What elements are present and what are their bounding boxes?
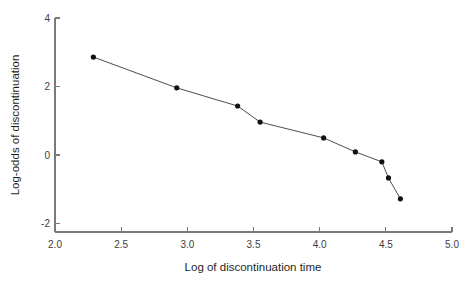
y-tick-label: 2 (44, 81, 50, 92)
data-point-marker (321, 135, 326, 140)
y-tick-label: 0 (44, 150, 50, 161)
x-tick-label: 4.0 (313, 239, 327, 250)
x-tick-label: 3.0 (180, 239, 194, 250)
x-tick-label: 5.0 (445, 239, 459, 250)
data-series-group (91, 54, 403, 201)
x-axis-ticks: 2.02.53.03.54.04.55.0 (48, 227, 459, 250)
data-point-marker (386, 175, 391, 180)
data-point-marker (174, 85, 179, 90)
x-tick-label: 3.5 (247, 239, 261, 250)
series-line (93, 57, 400, 199)
x-tick-label: 2.5 (114, 239, 128, 250)
y-axis: -2024 (41, 13, 60, 233)
y-axis-ticks: -2024 (41, 13, 60, 230)
x-axis-title: Log of discontinuation time (185, 261, 322, 273)
data-point-marker (353, 149, 358, 154)
data-point-marker (235, 103, 240, 108)
x-tick-label: 2.0 (48, 239, 62, 250)
log-odds-vs-log-time-chart: -2024 2.02.53.03.54.04.55.0 Log of disco… (0, 0, 470, 284)
x-axis: 2.02.53.03.54.04.55.0 (48, 227, 459, 250)
x-tick-label: 4.5 (379, 239, 393, 250)
data-point-marker (91, 54, 96, 59)
y-tick-label: 4 (44, 13, 50, 24)
y-tick-label: -2 (41, 218, 50, 229)
data-point-marker (379, 159, 384, 164)
y-axis-title: Log-odds of discontinuation (9, 55, 21, 196)
data-point-marker (398, 196, 403, 201)
data-point-marker (258, 120, 263, 125)
chart-page: -2024 2.02.53.03.54.04.55.0 Log of disco… (0, 0, 470, 284)
